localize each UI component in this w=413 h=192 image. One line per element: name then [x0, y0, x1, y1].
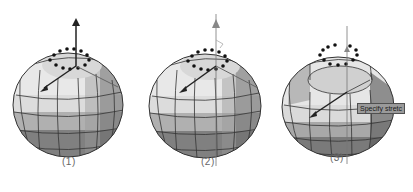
panel-1: (1)	[0, 0, 140, 192]
geosphere-3	[270, 0, 413, 192]
panel-3: Specify stretc (3)	[270, 0, 413, 192]
tooltip-specify-stretch: Specify stretc	[357, 103, 405, 114]
caption-2: (2)	[201, 156, 215, 167]
caption-1: (1)	[62, 156, 76, 167]
panel-2: (2)	[130, 0, 270, 192]
caption-3: (3)	[330, 152, 344, 163]
geosphere-2	[130, 0, 270, 192]
